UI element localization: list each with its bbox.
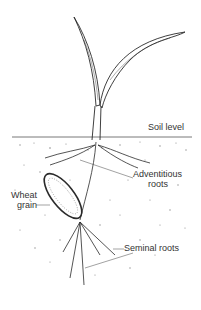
wheat-seedling-diagram: Soil level Adventitious roots Wheat grai…: [0, 0, 201, 310]
leaves: [74, 17, 185, 108]
wheat-grain-label-line2: grain: [17, 201, 37, 210]
soil: [12, 137, 192, 276]
soil-level-label: Soil level: [148, 123, 184, 132]
adventitious-roots-label-line2: roots: [148, 180, 168, 189]
wheat-grain: [38, 168, 89, 224]
stem: [80, 106, 101, 220]
seminal-roots-label: Seminal roots: [124, 244, 179, 253]
seminal-roots: [63, 222, 115, 285]
diagram-drawing: [0, 0, 201, 310]
adventitious-roots: [45, 145, 150, 168]
